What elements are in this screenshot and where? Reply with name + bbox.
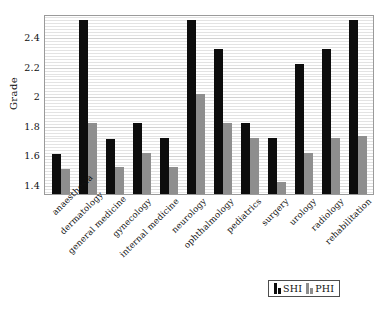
bar-group	[290, 16, 317, 194]
bar-shi-urology	[295, 64, 304, 194]
bar-shi-rehabilitation	[349, 20, 358, 194]
chart-legend: SHI PHI	[268, 280, 340, 297]
bar-group	[263, 16, 290, 194]
bar-group	[209, 16, 236, 194]
bar-group	[182, 16, 209, 194]
y-tick-label: 2.2	[24, 61, 40, 72]
bar-group	[344, 16, 371, 194]
bar-phi-internal-medicine	[169, 167, 178, 194]
legend-label-phi: PHI	[315, 284, 334, 294]
bar-shi-internal-medicine	[160, 138, 169, 194]
bar-shi-dermatology	[79, 20, 88, 194]
legend-item-phi: PHI	[306, 283, 334, 294]
bar-shi-anaesthesia	[52, 154, 61, 194]
y-tick-label: 1.6	[24, 150, 40, 161]
bar-phi-ophthalmology	[223, 123, 232, 194]
legend-swatch-phi-icon	[306, 283, 313, 294]
bar-shi-radiology	[322, 49, 331, 194]
bar-phi-gynecology	[142, 153, 151, 194]
y-tick-label: 2	[34, 91, 40, 102]
bar-shi-gynecology	[133, 123, 142, 194]
bar-group	[236, 16, 263, 194]
bar-phi-neurology	[196, 94, 205, 194]
y-tick-label: 2.4	[24, 32, 40, 43]
bar-shi-general-medicine	[106, 139, 115, 194]
bar-phi-radiology	[331, 138, 340, 194]
x-tick-label: anaesthesia	[50, 196, 71, 217]
bar-group	[317, 16, 344, 194]
bar-group	[155, 16, 182, 194]
legend-item-shi: SHI	[274, 283, 302, 294]
bar-phi-urology	[304, 153, 313, 194]
legend-label-shi: SHI	[283, 284, 302, 294]
bar-shi-neurology	[187, 20, 196, 194]
bar-shi-ophthalmology	[214, 49, 223, 194]
bar-shi-pediatrics	[241, 123, 250, 194]
bar-group	[47, 16, 74, 194]
bar-phi-rehabilitation	[358, 136, 367, 194]
plot-area	[44, 15, 374, 195]
legend-swatch-shi-icon	[274, 283, 281, 294]
bar-phi-general-medicine	[115, 167, 124, 194]
y-tick-label: 1.8	[24, 120, 40, 131]
bar-group	[128, 16, 155, 194]
bar-chart-figure: Grade 1.41.61.822.22.4 anaesthesiadermat…	[0, 0, 391, 314]
bar-phi-pediatrics	[250, 138, 259, 194]
bar-phi-surgery	[277, 182, 286, 194]
bar-groups	[45, 16, 373, 194]
y-axis-tick-labels: 1.41.61.822.22.4	[0, 0, 44, 200]
y-tick-label: 1.4	[24, 179, 40, 190]
bar-group	[74, 16, 101, 194]
bar-shi-surgery	[268, 138, 277, 194]
bar-group	[101, 16, 128, 194]
